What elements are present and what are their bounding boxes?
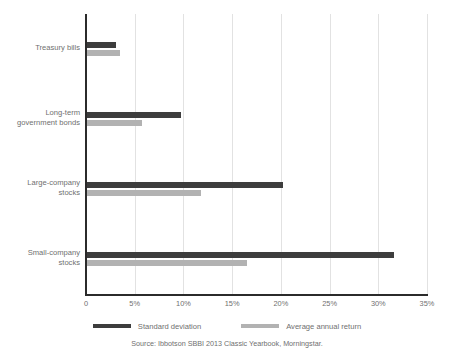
bar-chart: Treasury billsLong-termgovernment bondsL…: [0, 0, 454, 352]
x-tick-0: 0: [66, 299, 106, 308]
x-tick-30%: 30%: [358, 299, 398, 308]
category-label-line: stocks: [2, 258, 80, 268]
x-axis-line: [85, 294, 428, 296]
category-label-0: Treasury bills: [2, 43, 80, 53]
bar-average-annual-return: [86, 120, 142, 126]
category-label-line: stocks: [2, 188, 80, 198]
category-label-2: Large-companystocks: [2, 178, 80, 197]
chart-legend: Standard deviation Average annual return: [0, 319, 454, 333]
gridline-35%: [427, 14, 428, 294]
category-label-3: Small-companystocks: [2, 248, 80, 267]
legend-item-standard-deviation: Standard deviation: [93, 322, 201, 331]
legend-label-average-annual-return: Average annual return: [286, 322, 361, 331]
category-label-line: Treasury bills: [2, 43, 80, 53]
category-label-line: Long-term: [2, 108, 80, 118]
bar-standard-deviation: [86, 252, 394, 258]
category-label-line: Small-company: [2, 248, 80, 258]
x-tick-20%: 20%: [261, 299, 301, 308]
legend-swatch-icon-average-annual-return: [241, 324, 279, 328]
bar-standard-deviation: [86, 112, 181, 118]
x-tick-35%: 35%: [407, 299, 447, 308]
plot-area: [86, 14, 427, 294]
legend-item-average-annual-return: Average annual return: [241, 322, 361, 331]
x-tick-15%: 15%: [212, 299, 252, 308]
bar-standard-deviation: [86, 42, 116, 48]
legend-swatch-icon-standard-deviation: [93, 324, 131, 328]
y-axis-line: [85, 14, 87, 295]
bar-average-annual-return: [86, 50, 120, 56]
bar-standard-deviation: [86, 182, 283, 188]
source-note: Source: Ibbotson SBBI 2013 Classic Yearb…: [0, 339, 454, 348]
category-label-line: Large-company: [2, 178, 80, 188]
bar-average-annual-return: [86, 190, 201, 196]
x-tick-25%: 25%: [310, 299, 350, 308]
bar-average-annual-return: [86, 260, 247, 266]
x-tick-5%: 5%: [115, 299, 155, 308]
legend-label-standard-deviation: Standard deviation: [138, 322, 201, 331]
category-label-line: government bonds: [2, 118, 80, 128]
x-tick-10%: 10%: [163, 299, 203, 308]
category-label-1: Long-termgovernment bonds: [2, 108, 80, 127]
